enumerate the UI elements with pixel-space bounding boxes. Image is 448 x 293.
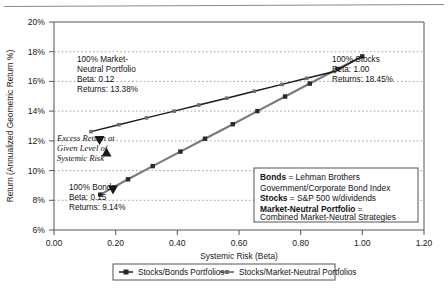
definition-row: Bonds = Lehman Brothers [260,172,360,182]
y-tick-label: 12% [28,136,46,146]
annotation-line: Excess Return at [56,133,115,143]
x-axis-ticks [54,230,424,235]
definition-term: Bonds [260,172,286,182]
annotation-line: 100% Stocks [332,55,380,64]
y-tick-label: 16% [28,76,46,86]
definition-row: Combined Market-Neutral Strategies [260,212,396,222]
annotation-line: 100% Bonds [69,183,115,192]
definition-text: = Lehman Brothers [286,172,360,182]
annotation-line: Beta: 1.00 [332,65,370,74]
x-axis-title: Systemic Risk (Beta) [200,251,278,261]
definition-row: Stocks = S&P 500 w/dividends [260,193,376,203]
y-tick-label: 8% [33,195,46,205]
annotation-line: Returns: 13.38% [77,85,138,94]
annotation-line: Returns: 9.14% [69,203,125,212]
definition-term: Stocks [260,193,288,203]
definition-row: Government/Corporate Bond Index [260,183,391,193]
y-axis-ticks [49,22,54,230]
legend-marker-square-icon [225,270,229,274]
annotation-line: Returns: 18.45% [332,75,393,84]
definition-box: Bonds = Lehman Brothers Government/Corpo… [254,168,418,222]
annotation-line: Beta: 0.12 [77,75,115,84]
y-tick-label: 6% [33,225,46,235]
x-tick-label: 0.60 [231,238,248,248]
chart-figure: 20% 18% 16% 14% 12% 10% 8% 6% Return (An… [0,0,448,293]
x-tick-label: 0.00 [46,238,63,248]
x-tick-label: 1.20 [416,238,433,248]
x-axis-tick-labels: 0.00 0.20 0.40 0.60 0.80 1.00 1.20 [46,238,433,248]
annotation-line: Beta: 0.15 [69,193,107,202]
x-tick-label: 0.20 [107,238,124,248]
annotation-line: 100% Market- [77,55,128,64]
annotation-line: Systemic Risk [57,153,104,163]
chart-legend: Stocks/Bonds Portfolios Stocks/Market-Ne… [113,264,356,280]
y-tick-label: 20% [28,17,46,27]
excess-return-annotation: Excess Return at Given Level of Systemic… [56,133,115,163]
y-axis-title: Return (Annualized Geometric Return %) [5,49,15,202]
legend-label: Stocks/Bonds Portfolios [138,268,224,277]
annotation-line: Given Level of [57,143,109,153]
x-tick-label: 1.00 [354,238,371,248]
y-tick-label: 14% [28,106,46,116]
stocks-annotation: 100% Stocks Beta: 1.00 Returns: 18.45% [332,55,393,84]
legend-item-market-neutral[interactable]: Stocks/Market-Neutral Portfolios [220,268,356,277]
legend-marker-square-icon [124,270,129,275]
y-tick-label: 18% [28,47,46,57]
annotation-line: Neutral Portfolio [77,65,136,74]
definition-text: = S&P 500 w/dividends [287,193,376,203]
y-axis-tick-labels: 20% 18% 16% 14% 12% 10% 8% 6% [28,17,46,235]
market-neutral-annotation: 100% Market- Neutral Portfolio Beta: 0.1… [77,55,138,94]
x-tick-label: 0.80 [292,238,309,248]
legend-label: Stocks/Market-Neutral Portfolios [239,268,356,277]
chart-canvas: 20% 18% 16% 14% 12% 10% 8% 6% Return (An… [0,0,448,293]
x-tick-label: 0.40 [169,238,186,248]
y-tick-label: 10% [28,166,46,176]
